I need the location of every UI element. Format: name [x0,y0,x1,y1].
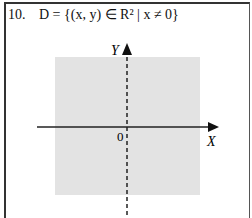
x-axis-label: X [207,134,216,150]
shaded-region [55,57,200,195]
y-axis-label: Y [111,43,119,59]
x-axis-arrow-icon [208,122,219,132]
y-axis-arrow-icon [122,43,132,55]
origin-label: 0 [117,129,124,145]
domain-diagram [0,0,252,218]
